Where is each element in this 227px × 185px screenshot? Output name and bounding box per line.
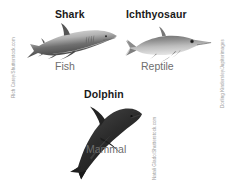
dolphin-silhouette-icon <box>68 100 150 180</box>
dolphin-heading: Dolphin <box>84 88 124 100</box>
credit-right: Dorling Kindersley/Jupiterimages <box>220 39 225 108</box>
shark-heading: Shark <box>55 8 85 20</box>
dolphin-class-label: Mammal <box>86 143 126 155</box>
credit-middle: Natali Glado/Shutterstock.com <box>152 117 157 181</box>
ichthyosaur-heading: Ichthyosaur <box>126 8 187 20</box>
shark-class-label: Fish <box>55 60 75 72</box>
credit-left: Rich Carey/Shutterstock.com <box>11 37 16 98</box>
ichthyosaur-class-label: Reptile <box>141 60 174 72</box>
